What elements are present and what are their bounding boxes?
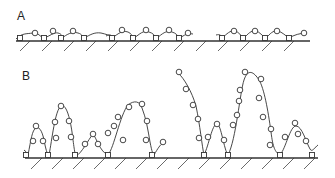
hatch-mark bbox=[73, 158, 84, 169]
polymer-chain bbox=[216, 31, 307, 38]
circle-marker bbox=[268, 126, 274, 132]
square-marker bbox=[177, 36, 182, 41]
circle-marker bbox=[267, 142, 273, 148]
square-marker bbox=[310, 153, 315, 158]
circle-marker bbox=[33, 123, 39, 129]
diagram-stage: A B bbox=[0, 0, 335, 178]
hatch-mark bbox=[20, 41, 30, 51]
hatch-mark bbox=[136, 158, 147, 169]
square-marker bbox=[220, 36, 225, 41]
circle-marker bbox=[58, 103, 64, 109]
circle-marker bbox=[53, 135, 59, 141]
square-marker bbox=[110, 36, 115, 41]
circle-marker bbox=[30, 138, 36, 144]
hatch-mark bbox=[218, 41, 228, 51]
circle-marker bbox=[40, 138, 46, 144]
adsorbed-segments-b bbox=[24, 153, 315, 158]
hatch-mark bbox=[152, 41, 162, 51]
hatch-mark bbox=[240, 41, 250, 51]
circle-marker bbox=[234, 112, 240, 118]
circle-marker bbox=[303, 138, 309, 144]
hatch-mark bbox=[241, 158, 252, 169]
circle-marker bbox=[144, 118, 150, 124]
circle-marker bbox=[214, 121, 220, 127]
hatch-mark bbox=[94, 158, 105, 169]
circle-marker bbox=[301, 30, 307, 36]
adsorbed-segments-a bbox=[18, 36, 292, 41]
circle-marker bbox=[231, 28, 237, 34]
square-marker bbox=[278, 153, 283, 158]
circle-marker bbox=[160, 139, 166, 145]
circle-marker bbox=[292, 120, 298, 126]
adsorbed-polymer-diagram: A B bbox=[0, 0, 335, 178]
hatch-mark bbox=[52, 158, 63, 169]
circle-marker bbox=[258, 76, 264, 82]
circle-marker bbox=[32, 30, 38, 36]
circle-marker bbox=[111, 123, 117, 129]
polymer-chain bbox=[24, 102, 163, 156]
square-marker bbox=[59, 36, 64, 41]
circle-marker bbox=[126, 104, 132, 110]
square-marker bbox=[287, 36, 292, 41]
circle-marker bbox=[282, 134, 288, 140]
square-marker bbox=[226, 153, 231, 158]
hatch-mark bbox=[174, 41, 184, 51]
square-marker bbox=[263, 36, 268, 41]
circle-marker bbox=[90, 131, 96, 137]
hatch-mark bbox=[304, 158, 315, 169]
panel-b: B bbox=[22, 69, 318, 169]
circle-marker bbox=[195, 116, 201, 122]
square-marker bbox=[24, 153, 29, 158]
circle-marker bbox=[66, 118, 72, 124]
square-marker bbox=[150, 153, 155, 158]
circle-marker bbox=[143, 27, 149, 33]
hatch-mark bbox=[283, 158, 294, 169]
circle-marker bbox=[68, 134, 74, 140]
surface-hatching-b bbox=[31, 158, 315, 169]
circle-marker bbox=[115, 114, 121, 120]
panel-a-label: A bbox=[17, 9, 25, 23]
hatch-mark bbox=[220, 158, 231, 169]
surface-hatching-a bbox=[20, 41, 294, 51]
square-marker bbox=[106, 153, 111, 158]
circle-marker bbox=[196, 135, 202, 141]
circle-marker bbox=[120, 137, 126, 143]
square-marker bbox=[46, 153, 51, 158]
circle-marker bbox=[205, 134, 211, 140]
circle-marker bbox=[230, 122, 236, 128]
square-marker bbox=[154, 36, 159, 41]
square-marker bbox=[202, 153, 207, 158]
hatch-mark bbox=[130, 41, 140, 51]
hatch-mark bbox=[284, 41, 294, 51]
square-marker bbox=[42, 36, 47, 41]
circle-marker bbox=[236, 98, 242, 104]
circle-marker bbox=[190, 102, 196, 108]
circle-marker bbox=[95, 141, 101, 147]
panel-b-label: B bbox=[22, 69, 30, 83]
polymer-chains-b bbox=[24, 72, 318, 156]
circle-marker bbox=[105, 130, 111, 136]
hatch-mark bbox=[196, 41, 206, 51]
square-marker bbox=[131, 36, 136, 41]
circle-marker bbox=[274, 28, 280, 34]
hatch-mark bbox=[115, 158, 126, 169]
hatch-mark bbox=[108, 41, 118, 51]
circle-marker bbox=[252, 28, 258, 34]
hatch-mark bbox=[199, 158, 210, 169]
circle-marker bbox=[70, 28, 76, 34]
hatch-mark bbox=[157, 158, 168, 169]
circle-marker bbox=[176, 69, 182, 75]
square-marker bbox=[18, 36, 23, 41]
hatch-mark bbox=[86, 41, 96, 51]
hatch-mark bbox=[262, 41, 272, 51]
circle-marker bbox=[256, 95, 262, 101]
circle-marker bbox=[166, 27, 172, 33]
circle-marker bbox=[143, 137, 149, 143]
circle-marker bbox=[119, 27, 125, 33]
circle-marker bbox=[52, 119, 58, 125]
circle-marker bbox=[139, 101, 145, 107]
circle-marker bbox=[82, 141, 88, 147]
hatch-mark bbox=[262, 158, 273, 169]
hatch-mark bbox=[31, 158, 42, 169]
circle-marker bbox=[50, 28, 56, 34]
